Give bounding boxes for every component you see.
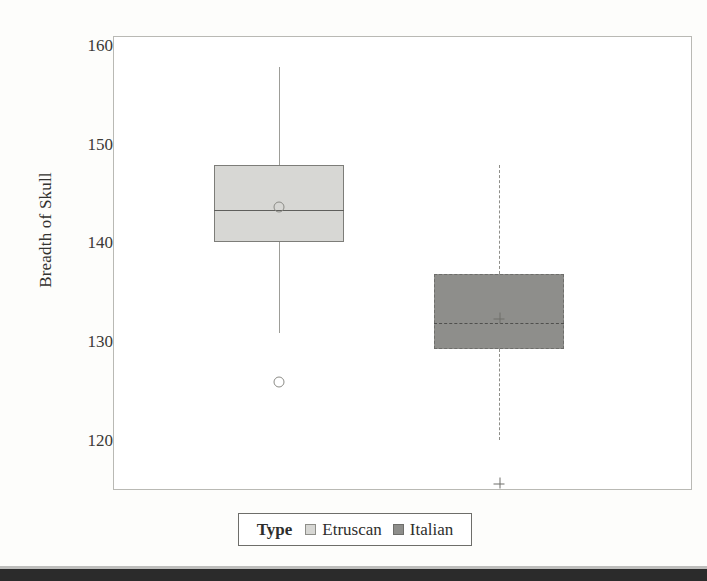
y-tick-label-120: 120	[61, 431, 113, 451]
box-series-container	[114, 37, 691, 489]
box-italian[interactable]	[434, 274, 564, 349]
legend[interactable]: Type Etruscan Italian	[238, 513, 472, 546]
y-tick-label-130: 130	[61, 332, 113, 352]
legend-label-italian: Italian	[410, 520, 453, 540]
y-axis-title: Breadth of Skull	[36, 120, 56, 340]
y-tick-label-160: 160	[61, 36, 113, 56]
boxplot-figure: Breadth of Skull 160150140130120 Type Et…	[0, 0, 707, 581]
y-tick-label-140: 140	[61, 233, 113, 253]
legend-label-etruscan: Etruscan	[322, 520, 381, 540]
legend-swatch-etruscan-icon	[305, 524, 316, 535]
legend-title: Type	[257, 520, 293, 540]
whisker-lower-italian	[499, 349, 500, 440]
whisker-upper-italian	[499, 165, 500, 274]
y-tick-label-150: 150	[61, 135, 113, 155]
mean-marker-italian	[494, 313, 505, 324]
outlier-italian-0	[494, 478, 505, 489]
boxplot-group-italian	[114, 37, 691, 489]
legend-item-italian[interactable]: Italian	[393, 520, 453, 540]
legend-swatch-italian-icon	[393, 524, 404, 535]
plot-area	[113, 36, 692, 490]
scan-edge-bar	[0, 569, 707, 581]
y-axis-tick-labels: 160150140130120	[55, 36, 113, 490]
legend-item-etruscan[interactable]: Etruscan	[305, 520, 381, 540]
